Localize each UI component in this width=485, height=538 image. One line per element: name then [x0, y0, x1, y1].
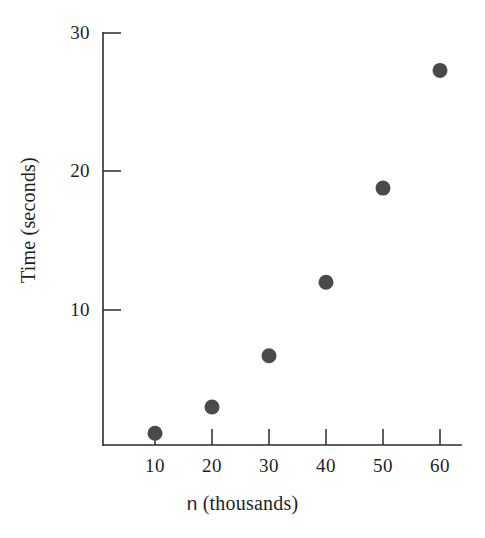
x-tick-label-10: 10: [133, 455, 177, 477]
y-tick-label-30: 30: [44, 22, 90, 44]
x-axis-title: n (thousands): [0, 492, 485, 515]
data-point: [148, 426, 163, 441]
data-point: [433, 63, 448, 78]
y-axis-title-wrap: Time (seconds): [17, 125, 47, 315]
x-tick-label-60: 60: [418, 455, 462, 477]
plot-canvas: [0, 0, 485, 538]
data-point: [205, 399, 220, 414]
y-axis-title: Time (seconds): [17, 125, 40, 315]
x-tick-label-30: 30: [247, 455, 291, 477]
x-tick-label-20: 20: [190, 455, 234, 477]
data-point: [319, 275, 334, 290]
x-tick-label-40: 40: [304, 455, 348, 477]
scatter-plot-figure: 30 20 10 10 20 30 40 50 60 Time (seconds…: [0, 0, 485, 538]
x-tick-label-50: 50: [361, 455, 405, 477]
data-point: [262, 348, 277, 363]
x-axis-title-variable: n: [187, 493, 198, 514]
y-tick-label-10: 10: [44, 299, 90, 321]
data-point-group: [148, 63, 448, 441]
data-point: [376, 181, 391, 196]
x-axis-title-rest: (thousands): [198, 492, 299, 514]
y-tick-label-20: 20: [44, 160, 90, 182]
